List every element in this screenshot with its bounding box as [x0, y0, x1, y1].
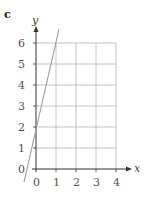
axes [32, 30, 128, 172]
y-tick-0: 0 [18, 163, 25, 176]
x-axis-label: x [134, 162, 141, 175]
x-axis-arrow-icon [126, 167, 132, 172]
y-tick-4: 4 [18, 79, 25, 92]
plotted-line [24, 29, 59, 182]
part-label: c [4, 8, 11, 21]
y-tick-1: 1 [18, 142, 25, 155]
grid [36, 43, 116, 169]
x-tick-4: 4 [113, 176, 120, 189]
x-tick-1: 1 [53, 176, 60, 189]
x-tick-2: 2 [73, 176, 80, 189]
x-tick-3: 3 [93, 176, 100, 189]
y-axis-label: y [31, 14, 39, 27]
y-tick-6: 6 [18, 37, 25, 50]
y-tick-3: 3 [18, 100, 25, 113]
y-tick-5: 5 [18, 58, 25, 71]
ticks [33, 43, 116, 172]
graph: c y x 6 5 4 3 2 1 0 0 1 2 3 4 [0, 0, 147, 201]
y-tick-2: 2 [18, 121, 25, 134]
x-tick-0: 0 [33, 176, 40, 189]
